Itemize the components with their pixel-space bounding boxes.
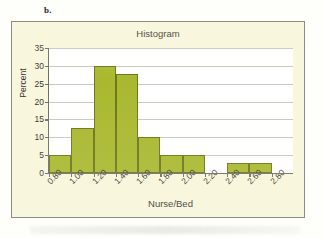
chart-frame: Histogram Percent 05101520253035 0.801.0… — [11, 21, 305, 218]
y-axis-tick-label: 30 — [14, 61, 49, 71]
figure-panel: b. Histogram Percent 05101520253035 0.80… — [0, 0, 324, 238]
histogram-bar — [116, 74, 138, 173]
y-axis-tick-label: 10 — [14, 132, 49, 142]
y-axis-tick-label: 15 — [14, 114, 49, 124]
panel-label: b. — [44, 5, 52, 15]
y-axis-tick-label: 0 — [14, 168, 49, 178]
page-smudge — [30, 226, 300, 234]
plot-area-wrapper: 05101520253035 0.801.001.201.401.601.802… — [48, 48, 293, 173]
plot-area: 05101520253035 0.801.001.201.401.601.802… — [48, 48, 293, 173]
y-axis-tick-label: 5 — [14, 150, 49, 160]
x-axis-title: Nurse/Bed — [48, 198, 293, 209]
histogram-bar — [71, 128, 93, 173]
histogram-bars — [49, 48, 293, 173]
y-axis-tick-label: 25 — [14, 79, 49, 89]
x-axis-line — [49, 173, 293, 174]
histogram-bar — [94, 66, 116, 173]
chart-title: Histogram — [12, 28, 304, 39]
histogram-bar — [138, 137, 160, 173]
y-axis-tick-label: 35 — [14, 43, 49, 53]
y-axis-tick-label: 20 — [14, 97, 49, 107]
